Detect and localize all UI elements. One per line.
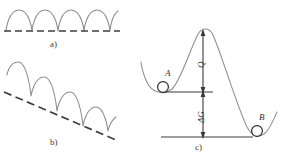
panel-b-group [4,62,116,140]
panel-b-potential-curve [7,62,116,131]
panel-c-caption: c) [195,142,202,152]
state-b-label: B [259,112,265,122]
panel-a-group [4,10,120,31]
panel-a-potential-curve [6,10,118,31]
figure-svg [0,0,283,160]
figure-container: a) b) c) A B Q ΔG [0,0,283,160]
state-a-label: A [165,68,171,78]
panel-c-ball-b [252,126,263,137]
panel-c-arrow-dg-head-top [201,90,206,97]
panel-a-caption: a) [50,39,57,49]
panel-b-dashed-baseline [4,92,116,140]
panel-c-ball-a [158,82,169,93]
barrier-energy-label: Q [196,62,206,69]
panel-b-caption: b) [50,137,58,147]
free-energy-difference-label: ΔG [196,111,206,123]
panel-c-group [141,29,277,139]
panel-c-arrow-dg-head-bottom [201,132,206,139]
